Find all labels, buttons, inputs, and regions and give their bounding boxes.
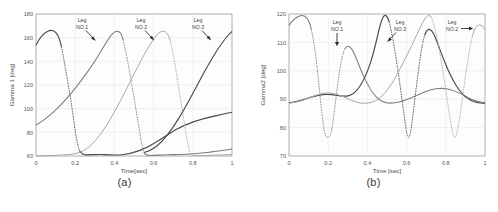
figure-container: 180 160 140 120 100 80 60 0 0.2 0.4 0.6 … — [0, 0, 498, 212]
ytick-b-3: 100 — [277, 68, 286, 74]
chart-a-svg: 180 160 140 120 100 80 60 0 0.2 0.4 0.6 … — [0, 0, 249, 176]
annotation-a-leg3-line2: NO.3 — [192, 24, 204, 30]
ytick-a-0: 60 — [27, 153, 33, 159]
xtick-a-0: 0 — [34, 160, 37, 166]
plot-a-ylabel: Gamma 1 [deg] — [8, 63, 15, 106]
xtick-b-1: 0.2 — [324, 160, 332, 166]
annotation-b-leg3-line1: Leg — [396, 19, 405, 25]
ytick-b-0: 70 — [280, 153, 286, 159]
xtick-b-3: 0.6 — [403, 160, 411, 166]
plot-b: 120 110 100 90 80 70 0 0.2 0.4 0.6 0.8 1… — [249, 0, 498, 176]
chart-b-svg: 120 110 100 90 80 70 0 0.2 0.4 0.6 0.8 1… — [249, 0, 498, 176]
plot-a-xlabel: Time[sec] — [121, 167, 148, 174]
ytick-b-5: 120 — [277, 11, 286, 17]
annotation-a-leg2-line2: NO.2 — [135, 24, 147, 30]
panel-a: 180 160 140 120 100 80 60 0 0.2 0.4 0.6 … — [0, 0, 249, 212]
ytick-a-2: 100 — [24, 106, 33, 112]
plot-a-yticks: 180 160 140 120 100 80 60 — [24, 11, 33, 159]
ytick-a-4: 140 — [24, 59, 33, 65]
ytick-b-1: 80 — [280, 125, 286, 131]
annotation-a-leg2-line1: Leg — [137, 17, 146, 23]
annotation-a-leg3-line1: Leg — [194, 17, 203, 23]
caption-b: (b) — [249, 176, 498, 188]
panel-b: 120 110 100 90 80 70 0 0.2 0.4 0.6 0.8 1… — [249, 0, 498, 212]
plot-b-xticks: 0 0.2 0.4 0.6 0.8 1 — [287, 160, 486, 166]
xtick-a-3: 0.6 — [150, 160, 158, 166]
ytick-b-4: 110 — [277, 40, 286, 46]
ytick-a-1: 80 — [27, 130, 33, 136]
plot-a: 180 160 140 120 100 80 60 0 0.2 0.4 0.6 … — [0, 0, 249, 176]
xtick-a-1: 0.2 — [71, 160, 79, 166]
xtick-a-2: 0.4 — [111, 160, 119, 166]
xtick-a-5: 1 — [230, 160, 233, 166]
xtick-b-2: 0.4 — [364, 160, 372, 166]
caption-a: (a) — [0, 176, 249, 188]
xtick-b-5: 1 — [483, 160, 486, 166]
ytick-a-3: 120 — [24, 82, 33, 88]
plot-b-yticks: 120 110 100 90 80 70 — [277, 11, 286, 159]
annotation-b-leg3-line2: NO.3 — [394, 26, 406, 32]
ytick-a-6: 180 — [24, 11, 33, 17]
ytick-a-5: 160 — [24, 35, 33, 41]
xtick-a-4: 0.8 — [189, 160, 197, 166]
annotation-b-leg1-line1: Leg — [333, 19, 342, 25]
xtick-b-4: 0.8 — [442, 160, 450, 166]
annotation-a-leg1-line1: Leg — [78, 17, 87, 23]
plot-b-xlabel: Time [sec] — [373, 167, 402, 174]
annotation-b-leg2-line2: NO.2 — [446, 26, 458, 32]
xtick-b-0: 0 — [287, 160, 290, 166]
annotation-b-leg2-line1: Leg — [448, 19, 457, 25]
ytick-b-2: 90 — [280, 96, 286, 102]
plot-a-xticks: 0 0.2 0.4 0.6 0.8 1 — [34, 160, 233, 166]
plot-b-ylabel: Gamma2 [deg] — [259, 64, 266, 105]
annotation-b-leg1-line2: NO.1 — [331, 26, 343, 32]
annotation-a-leg1-line2: NO.1 — [76, 24, 88, 30]
